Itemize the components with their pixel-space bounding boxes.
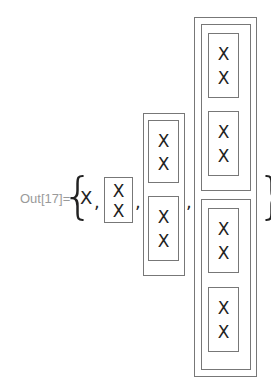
framed-sublist: X X: [148, 196, 179, 261]
element-x: X: [209, 123, 238, 141]
element-x: X: [149, 232, 178, 250]
framed-sublist-level-2: X X X X: [201, 199, 251, 370]
framed-sublist-level-2: X X X X: [201, 24, 251, 191]
framed-list-level-3: X X X X X X X X: [194, 17, 257, 377]
framed-sublist: X X: [208, 287, 239, 352]
element-x: X: [149, 155, 178, 173]
framed-sublist: X X: [208, 111, 239, 176]
element-x: X: [209, 299, 238, 317]
comma-1: ,: [94, 191, 100, 212]
element-x: X: [209, 45, 238, 63]
element-x: X: [209, 323, 238, 341]
element-x: X: [209, 244, 238, 262]
element-x: X: [105, 182, 132, 200]
framed-list-level-2: X X X X: [143, 113, 185, 276]
close-brace: }: [257, 168, 271, 224]
element-x: X: [105, 202, 132, 220]
comma-2: ,: [135, 191, 141, 212]
framed-sublist: X X: [208, 33, 239, 98]
element-x: X: [149, 208, 178, 226]
element-x: X: [209, 69, 238, 87]
framed-sublist: X X: [208, 208, 239, 273]
framed-list-level-1: X X: [104, 177, 133, 223]
element-x: X: [209, 147, 238, 165]
element-x: X: [209, 220, 238, 238]
element-x: X: [80, 188, 92, 208]
framed-sublist: X X: [148, 120, 179, 183]
comma-3: ,: [186, 191, 192, 212]
element-x: X: [149, 132, 178, 150]
